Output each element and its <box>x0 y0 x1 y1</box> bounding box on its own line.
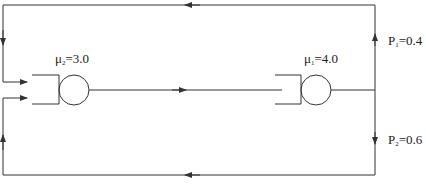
branch-1-probability-label: P1=0.4 <box>388 33 423 49</box>
queue-2-server <box>59 75 89 105</box>
queue-1-rate-label: μ1=4.0 <box>304 51 338 67</box>
queue-1-server <box>301 75 331 105</box>
branch-2-probability-label: P2=0.6 <box>388 132 423 148</box>
queue-2-buffer <box>32 75 59 104</box>
queue-2-rate-label: μ2=3.0 <box>55 51 89 67</box>
queueing-network-diagram: μ2=3.0 μ1=4.0 P1=0.4 P2=0.6 <box>0 0 426 184</box>
